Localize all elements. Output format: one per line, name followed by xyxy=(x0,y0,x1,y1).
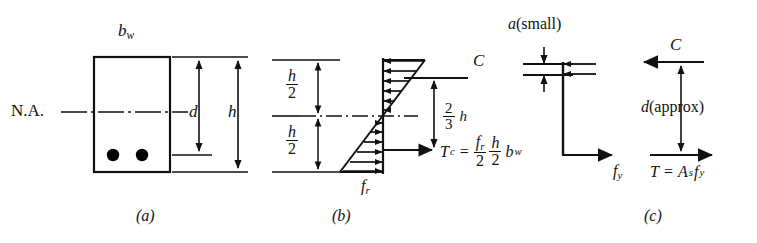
rebar-dot xyxy=(136,149,148,161)
label-h-over-2-upper: h2 xyxy=(286,68,298,102)
caption-panel-c: (c) xyxy=(644,208,662,224)
label-d: d xyxy=(189,103,198,120)
caption-panel-b: (b) xyxy=(332,208,351,224)
label-two-thirds-h: 23h xyxy=(443,101,467,133)
label-fr: fr xyxy=(361,178,370,196)
label-h: h xyxy=(228,103,237,120)
label-neutral-axis: N.A. xyxy=(11,102,44,119)
equation-ultimate-tension: T = As fy xyxy=(650,164,704,180)
label-h-over-2-lower: h2 xyxy=(286,124,298,158)
panel-a-geometry xyxy=(61,57,248,172)
beam-section-outline xyxy=(94,57,170,172)
label-C-panel-b: C xyxy=(473,52,484,69)
label-bw: bw xyxy=(118,22,134,42)
rebar-dot xyxy=(107,149,119,161)
caption-panel-a: (a) xyxy=(136,208,155,224)
label-C-panel-c: C xyxy=(670,36,681,53)
label-a-small: a(small) xyxy=(508,16,561,32)
equation-cracking-tension: Tc = fr2 h2 bw xyxy=(440,134,522,169)
figure-container: bw N.A. d h (a) h2 h2 C 23h fr Tc = fr2 … xyxy=(0,0,757,243)
panel-b-geometry xyxy=(272,58,468,174)
label-fy: fy xyxy=(613,163,622,181)
label-d-approx: d(approx) xyxy=(641,99,704,115)
